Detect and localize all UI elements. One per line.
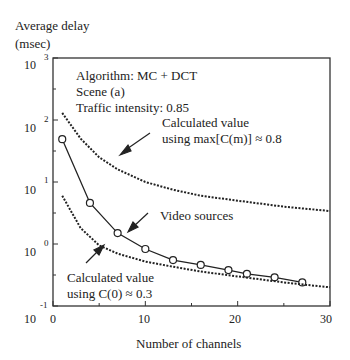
data-point-marker	[225, 267, 232, 274]
data-point-marker	[114, 230, 121, 237]
upper-curve-label-1: Calculated value	[162, 115, 249, 130]
data-point-marker	[271, 274, 278, 281]
ytick-1: 10	[24, 183, 36, 198]
lower-curve-label-2: using C(0) ≈ 0.3	[67, 286, 152, 301]
annotation-scene: Scene (a)	[76, 84, 125, 99]
x-axis-label: Number of channels	[136, 336, 241, 351]
ytick-3: 10	[24, 58, 36, 73]
ytick-2: 10	[24, 121, 36, 136]
ytick-0: 10	[24, 245, 36, 260]
xtick-10: 10	[138, 312, 150, 327]
lower-curve-label-1: Calculated value	[67, 270, 154, 285]
ytick-exp-0: 0	[44, 238, 49, 248]
arrow-icons	[86, 133, 150, 263]
data-point-marker	[59, 136, 66, 143]
xtick-20: 20	[229, 312, 241, 327]
ytick-exp-1: 1	[44, 175, 49, 185]
xtick-0: 0	[50, 312, 56, 327]
data-point-marker	[197, 261, 204, 268]
video-sources-label: Video sources	[160, 208, 233, 223]
ytick-exp-2: 2	[44, 114, 49, 124]
xtick-30: 30	[320, 312, 332, 327]
plot-area	[0, 0, 350, 360]
annotation-algorithm: Algorithm: MC + DCT	[76, 68, 197, 83]
ytick-neg1: 10	[24, 312, 36, 327]
ytick-exp-neg1: -1	[40, 300, 48, 310]
annotation-traffic: Traffic intensity: 0.85	[76, 100, 189, 115]
ytick-exp-3: 3	[44, 52, 49, 62]
data-point-marker	[170, 257, 177, 264]
data-point-marker	[86, 199, 93, 206]
data-point-marker	[142, 246, 149, 253]
upper-curve-label-2: using max[C(m)] ≈ 0.8	[162, 131, 282, 146]
